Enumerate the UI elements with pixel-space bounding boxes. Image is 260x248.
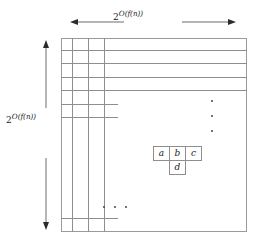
tableau-grid: a b c d xyxy=(61,38,247,232)
grid-vertical-line xyxy=(104,38,105,232)
grid-vertical-line xyxy=(88,38,89,232)
ellipsis-dot xyxy=(114,206,116,208)
ellipsis-dot xyxy=(211,130,213,132)
cell-a: a xyxy=(153,146,170,161)
left-label-arg: (f(n)) xyxy=(18,112,37,121)
tableau-figure: 2O(f(n)) 2O(f(n)) xyxy=(0,0,260,248)
arrow-head-right xyxy=(228,19,236,25)
ellipsis-dot xyxy=(103,206,105,208)
ellipsis-dot xyxy=(125,206,127,208)
grid-horizontal-line-partial xyxy=(61,218,118,219)
ellipsis-dot xyxy=(211,115,213,117)
grid-horizontal-line-partial xyxy=(61,104,118,105)
arrow-head-left xyxy=(70,19,78,25)
grid-horizontal-line xyxy=(61,50,247,51)
vertical-ellipsis xyxy=(211,100,215,134)
grid-horizontal-line-partial xyxy=(61,117,118,118)
arrow-head-up xyxy=(43,40,49,48)
arrow-head-down xyxy=(43,222,49,230)
grid-vertical-line xyxy=(72,38,73,232)
grid-horizontal-line xyxy=(61,77,247,78)
grid-horizontal-line xyxy=(61,90,247,91)
horizontal-dimension-arrow xyxy=(70,16,236,28)
cell-b: b xyxy=(169,146,186,161)
vertical-dimension-arrow xyxy=(40,40,52,230)
cell-c: c xyxy=(185,146,202,161)
left-dimension-label: 2O(f(n)) xyxy=(6,116,36,125)
ellipsis-dot xyxy=(211,100,213,102)
horizontal-ellipsis xyxy=(103,206,137,210)
grid-horizontal-line xyxy=(61,63,247,64)
cell-d: d xyxy=(169,160,186,175)
